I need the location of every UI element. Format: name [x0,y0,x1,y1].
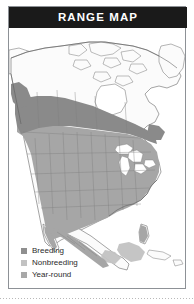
legend-item-nonbreeding: Nonbreeding [21,257,78,268]
footer-dotted-rule [0,298,194,299]
panel-title-bar: RANGE MAP [9,7,187,28]
legend-swatch-breeding [21,248,27,254]
legend-swatch-nonbreeding [21,260,27,266]
legend-item-breeding: Breeding [21,245,78,256]
legend-label-breeding: Breeding [32,247,64,255]
map-canvas: Breeding Nonbreeding Year-round [9,28,185,288]
legend-label-nonbreeding: Nonbreeding [32,259,78,267]
map-legend: Breeding Nonbreeding Year-round [21,245,78,281]
legend-swatch-year-round [21,272,27,278]
range-map-panel: RANGE MAP [8,6,186,289]
legend-label-year-round: Year-round [32,271,71,279]
legend-item-year-round: Year-round [21,269,78,280]
range-map-figure: RANGE MAP [0,0,194,304]
panel-title: RANGE MAP [58,12,138,24]
